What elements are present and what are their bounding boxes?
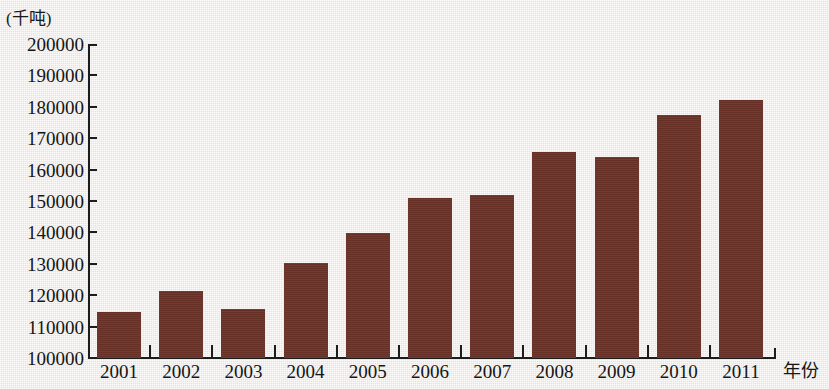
- x-axis-tick: [522, 345, 524, 358]
- x-axis-title: 年份: [783, 362, 819, 380]
- x-axis-tick-label: 2002: [151, 362, 211, 381]
- x-axis-tick-label: 2010: [649, 362, 709, 381]
- bar: [97, 312, 141, 358]
- y-axis-tick-label: 190000: [0, 66, 84, 85]
- x-axis-tick-label: 2004: [276, 362, 336, 381]
- bar: [470, 195, 514, 358]
- x-axis-tick: [585, 345, 587, 358]
- x-axis-tick: [709, 345, 711, 358]
- y-axis-top-cap: [88, 44, 97, 46]
- y-axis-tick-label: 170000: [0, 129, 84, 148]
- y-axis-tick: [88, 294, 97, 296]
- x-axis-tick: [647, 345, 649, 358]
- x-axis-tick-label: 2005: [338, 362, 398, 381]
- x-axis-tick-label: 2008: [524, 362, 584, 381]
- x-axis-tick: [211, 345, 213, 358]
- y-axis-tick: [88, 200, 97, 202]
- y-axis-tick-label: 130000: [0, 255, 84, 274]
- y-axis-tick: [88, 74, 97, 76]
- y-axis-tick: [88, 106, 97, 108]
- x-axis-tick-label: 2006: [400, 362, 460, 381]
- bar: [159, 291, 203, 358]
- x-axis-tick: [460, 345, 462, 358]
- x-axis-tick-label: 2009: [587, 362, 647, 381]
- y-axis-tick-label: 120000: [0, 286, 84, 305]
- x-axis-tick: [336, 345, 338, 358]
- bar: [532, 152, 576, 358]
- y-axis-tick-label: 140000: [0, 223, 84, 242]
- x-axis-tick-label: 2007: [462, 362, 522, 381]
- y-axis-tick: [88, 169, 97, 171]
- x-axis-tick: [274, 345, 276, 358]
- x-axis-tick-label: 2011: [711, 362, 771, 381]
- y-axis-tick-label: 110000: [0, 318, 84, 337]
- bar-chart: (千吨) 20000019000018000017000016000015000…: [0, 0, 829, 389]
- bar: [284, 263, 328, 358]
- x-axis-tick-label: 2001: [89, 362, 149, 381]
- y-axis-tick: [88, 326, 97, 328]
- y-axis-tick-label: 180000: [0, 98, 84, 117]
- y-axis-tick-label: 150000: [0, 192, 84, 211]
- y-axis-tick-label: 100000: [0, 349, 84, 368]
- bar: [346, 233, 390, 358]
- x-axis-tick: [398, 345, 400, 358]
- y-axis-tick: [88, 231, 97, 233]
- y-axis-tick: [88, 137, 97, 139]
- bar: [595, 157, 639, 358]
- x-axis-tick: [149, 345, 151, 358]
- bar: [719, 100, 763, 358]
- y-axis-tick: [88, 263, 97, 265]
- x-axis-end-cap: [774, 348, 776, 359]
- y-axis-unit-label: (千吨): [6, 4, 51, 29]
- bar: [657, 115, 701, 358]
- y-axis-tick-label: 200000: [0, 35, 84, 54]
- bar: [408, 198, 452, 358]
- bar: [221, 309, 265, 358]
- y-axis-tick-label: 160000: [0, 161, 84, 180]
- x-axis-tick-label: 2003: [213, 362, 273, 381]
